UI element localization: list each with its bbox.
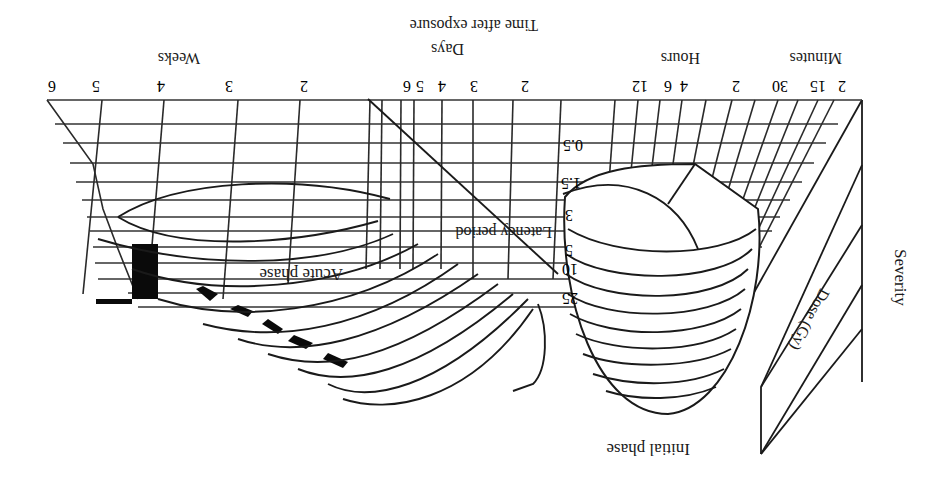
tick-days-6: 6 <box>403 77 411 95</box>
unit-minutes-label: Minutes <box>790 49 842 67</box>
tick-days-5: 5 <box>416 77 424 95</box>
unit-weeks-label: Weeks <box>158 49 200 67</box>
surface-plot <box>0 0 938 499</box>
unit-hours-label: Hours <box>661 49 700 67</box>
time-axis-title: Time after exposure <box>410 16 538 34</box>
tick-hours-4: 4 <box>680 77 688 95</box>
tick-dose-1-5: 1.5 <box>561 174 581 192</box>
severity-label: Severity <box>890 249 910 306</box>
tick-hours-2: 2 <box>732 77 740 95</box>
tick-dose-25: 25 <box>562 289 578 307</box>
tick-weeks-3: 3 <box>225 77 233 95</box>
initial-phase-surface <box>563 164 760 414</box>
tick-days-4: 4 <box>438 77 446 95</box>
tick-dose-5: 5 <box>565 241 573 259</box>
latency-period-label: Latency period <box>456 223 552 241</box>
tick-weeks-2: 2 <box>300 77 308 95</box>
tick-days-3: 3 <box>470 77 478 95</box>
tick-dose-0-5: 0.5 <box>563 136 583 154</box>
tick-weeks-5: 5 <box>92 77 100 95</box>
tick-hours-12: 12 <box>632 77 648 95</box>
acute-phase-label: Acute phase <box>259 264 343 284</box>
tick-dose-3: 3 <box>565 206 573 224</box>
tick-minutes-15: 15 <box>810 77 826 95</box>
tick-weeks-4: 4 <box>157 77 165 95</box>
tick-dose-10: 10 <box>562 260 578 278</box>
unit-days-label: Days <box>431 40 464 58</box>
tick-minutes-2: 2 <box>838 77 846 95</box>
tick-days-2: 2 <box>521 77 529 95</box>
initial-phase-label: Initial phase <box>606 439 690 459</box>
tick-hours-6: 6 <box>664 77 672 95</box>
radiation-severity-surface-figure: Severity Dose (Gy) Time after exposure M… <box>0 0 938 499</box>
tick-weeks-6: 6 <box>48 77 56 95</box>
tick-minutes-30: 30 <box>772 77 788 95</box>
